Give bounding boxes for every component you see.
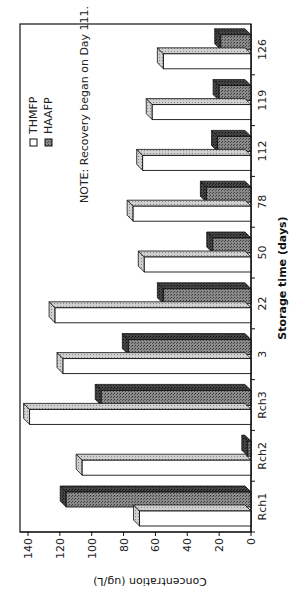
- legend: THMFP HAAFP: [27, 96, 55, 146]
- x-tick-label: 112: [256, 141, 269, 162]
- x-tick-label: Rch1: [256, 493, 269, 521]
- bar-haafp-rch3: [95, 384, 251, 405]
- y-tick-label: 140: [22, 538, 35, 559]
- x-tick-label: 78: [256, 195, 269, 209]
- bar-haafp-rch1: [60, 486, 251, 507]
- x-axis-title: Storage time (days): [276, 216, 289, 339]
- bar-thmfp-rch2: [76, 454, 251, 475]
- bar-thmfp-22: [49, 302, 251, 323]
- x-tick-label: 126: [256, 39, 269, 60]
- x-tick-label: 50: [256, 246, 269, 260]
- bar-haafp-rch2: [242, 435, 251, 456]
- category-axis: Rch1Rch2Rch33225078112119126: [251, 39, 269, 532]
- y-tick-label: 40: [181, 538, 194, 552]
- bar-haafp-78: [200, 181, 251, 202]
- x-tick-label: Rch2: [256, 442, 269, 470]
- x-tick-label: 119: [256, 90, 269, 111]
- y-tick-label: 80: [118, 538, 131, 552]
- bar-thmfp-126: [157, 48, 251, 69]
- bar-thmfp-rch1: [134, 505, 252, 526]
- legend-label-thmfp: THMFP: [27, 96, 40, 135]
- note-annotation: NOTE: Recovery began on Day 111.: [78, 6, 91, 203]
- bar-thmfp-112: [137, 149, 251, 170]
- bar-haafp-3: [122, 334, 251, 355]
- bar-haafp-126: [215, 29, 251, 50]
- bar-haafp-119: [213, 80, 251, 101]
- legend-swatch-haafp: [45, 139, 52, 146]
- bars-group: [24, 29, 251, 526]
- y-tick-label: 0: [245, 538, 258, 545]
- bar-thmfp-3: [57, 353, 251, 374]
- bar-haafp-22: [157, 283, 251, 304]
- chart-stage: 020406080100120140 Rch1Rch2Rch3322507811…: [0, 0, 293, 598]
- bar-thmfp-78: [127, 200, 251, 221]
- y-tick-label: 60: [149, 538, 162, 552]
- y-tick-label: 100: [86, 538, 99, 559]
- bar-chart: 020406080100120140 Rch1Rch2Rch3322507811…: [0, 0, 293, 598]
- legend-swatch-thmfp: [30, 139, 37, 146]
- bar-haafp-112: [212, 130, 251, 151]
- x-tick-label: 22: [256, 296, 269, 310]
- x-tick-label: Rch3: [256, 391, 269, 419]
- bar-thmfp-119: [146, 99, 251, 120]
- bar-thmfp-50: [138, 251, 251, 272]
- bar-thmfp-rch3: [24, 403, 251, 424]
- y-tick-label: 120: [54, 538, 67, 559]
- y-tick-label: 20: [213, 538, 226, 552]
- legend-label-haafp: HAAFP: [42, 97, 55, 134]
- y-axis-title: Concentration (ug/L): [93, 575, 207, 588]
- x-tick-label: 3: [256, 351, 269, 358]
- bar-haafp-50: [207, 232, 251, 253]
